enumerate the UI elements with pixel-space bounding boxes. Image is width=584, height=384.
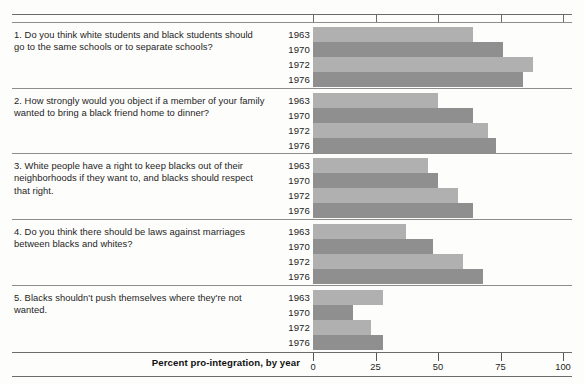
bar-group <box>313 290 575 350</box>
question-row: 3. White people have a right to keep bla… <box>0 153 584 219</box>
bar-1972 <box>313 57 533 72</box>
bar-group <box>313 27 575 87</box>
x-tick-0 <box>313 353 314 361</box>
question-text: 3. White people have a right to keep bla… <box>14 160 266 197</box>
x-tick-label-25: 25 <box>370 361 380 372</box>
year-label-1976: 1976 <box>268 269 310 284</box>
x-tick-25 <box>376 353 377 361</box>
question-row: 5. Blacks shouldn't push themselves wher… <box>0 285 584 352</box>
year-label-1972: 1972 <box>268 188 310 203</box>
bar-1970 <box>313 173 438 188</box>
bar-1970 <box>313 239 433 254</box>
question-text: 2. How strongly would you object if a me… <box>14 95 266 120</box>
question-row: 1. Do you think white students and black… <box>0 22 584 88</box>
bar-1972 <box>313 254 463 269</box>
year-label-1963: 1963 <box>268 158 310 173</box>
question-body: White people have a right to keep blacks… <box>14 160 253 196</box>
bar-1972 <box>313 123 488 138</box>
bar-1963 <box>313 27 473 42</box>
bar-1970 <box>313 42 503 57</box>
question-text: 1. Do you think white students and black… <box>14 29 266 54</box>
x-tick-50 <box>438 353 439 361</box>
year-label-1970: 1970 <box>268 173 310 188</box>
bar-1976 <box>313 335 383 350</box>
question-body: How strongly would you object if a membe… <box>14 95 264 118</box>
bar-1970 <box>313 108 473 123</box>
bar-group <box>313 158 575 218</box>
year-labels: 1963197019721976 <box>268 290 310 350</box>
year-label-1970: 1970 <box>268 42 310 57</box>
year-label-1963: 1963 <box>268 27 310 42</box>
question-number: 4. <box>14 226 25 237</box>
question-text: 4. Do you think there should be laws aga… <box>14 226 266 251</box>
bar-1963 <box>313 93 438 108</box>
year-label-1972: 1972 <box>268 320 310 335</box>
year-label-1970: 1970 <box>268 305 310 320</box>
row-separator <box>12 88 572 89</box>
year-labels: 1963197019721976 <box>268 27 310 87</box>
bar-1976 <box>313 203 473 218</box>
chart-sheet: 1. Do you think white students and black… <box>0 0 584 384</box>
year-label-1972: 1972 <box>268 57 310 72</box>
bar-group <box>313 224 575 284</box>
year-label-1972: 1972 <box>268 123 310 138</box>
year-label-1963: 1963 <box>268 290 310 305</box>
question-number: 2. <box>14 95 25 106</box>
year-labels: 1963197019721976 <box>268 224 310 284</box>
x-tick-label-50: 50 <box>433 361 443 372</box>
bar-1963 <box>313 290 383 305</box>
year-label-1963: 1963 <box>268 224 310 239</box>
bottom-rule <box>12 376 572 377</box>
question-text: 5. Blacks shouldn't push themselves wher… <box>14 292 266 317</box>
year-label-1970: 1970 <box>268 239 310 254</box>
bar-1976 <box>313 269 483 284</box>
year-label-1976: 1976 <box>268 203 310 218</box>
bar-1972 <box>313 188 458 203</box>
x-tick-label-0: 0 <box>310 361 315 372</box>
bar-1963 <box>313 224 406 239</box>
year-label-1976: 1976 <box>268 335 310 350</box>
bar-group <box>313 93 575 153</box>
question-number: 1. <box>14 29 25 40</box>
year-label-1970: 1970 <box>268 108 310 123</box>
x-axis-caption: Percent pro-integration, by year <box>100 357 300 368</box>
x-tick-100 <box>563 353 564 361</box>
bar-1970 <box>313 305 353 320</box>
bar-1963 <box>313 158 428 173</box>
year-labels: 1963197019721976 <box>268 93 310 153</box>
question-body: Do you think white students and black st… <box>14 29 253 52</box>
row-separator <box>12 22 572 23</box>
question-number: 5. <box>14 292 25 303</box>
year-label-1963: 1963 <box>268 93 310 108</box>
bar-1972 <box>313 320 371 335</box>
year-label-1976: 1976 <box>268 72 310 87</box>
x-tick-label-100: 100 <box>555 361 571 372</box>
row-separator <box>12 219 572 220</box>
row-separator <box>12 285 572 286</box>
year-label-1976: 1976 <box>268 138 310 153</box>
question-body: Blacks shouldn't push themselves where t… <box>14 292 242 315</box>
year-labels: 1963197019721976 <box>268 158 310 218</box>
bar-1976 <box>313 72 523 87</box>
question-body: Do you think there should be laws agains… <box>14 226 245 249</box>
question-number: 3. <box>14 160 25 171</box>
row-separator <box>12 153 572 154</box>
x-tick-label-75: 75 <box>495 361 505 372</box>
question-row: 2. How strongly would you object if a me… <box>0 88 584 153</box>
bar-1976 <box>313 138 496 153</box>
question-row: 4. Do you think there should be laws aga… <box>0 219 584 285</box>
x-tick-75 <box>501 353 502 361</box>
year-label-1972: 1972 <box>268 254 310 269</box>
